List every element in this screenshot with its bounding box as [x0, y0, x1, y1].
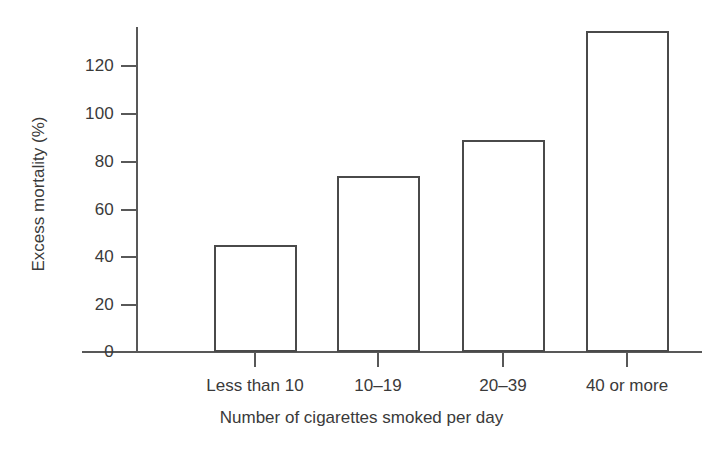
y-axis-tick-label: 100	[54, 104, 114, 124]
bar	[586, 31, 669, 352]
x-axis-category-label: 40 or more	[547, 376, 707, 396]
y-axis-tick-label: 60	[54, 200, 114, 220]
y-axis-title: Excess mortality (%)	[29, 69, 49, 319]
bar-chart: Excess mortality (%) 0 20 40 60 80 100 1…	[0, 0, 723, 451]
x-axis-tick	[377, 353, 379, 367]
y-axis-tick	[121, 304, 137, 306]
x-axis-title: Number of cigarettes smoked per day	[0, 408, 723, 428]
y-axis-tick-label: 40	[54, 247, 114, 267]
x-axis-tick	[626, 353, 628, 367]
y-axis-tick	[121, 161, 137, 163]
y-axis-tick	[121, 256, 137, 258]
y-axis-tick-label: 80	[54, 152, 114, 172]
y-axis-tick	[121, 113, 137, 115]
bar	[214, 245, 297, 352]
y-axis-tick	[121, 65, 137, 67]
y-axis-tick-label: 0	[54, 342, 114, 362]
y-axis-tick	[121, 351, 137, 353]
x-axis-tick	[254, 353, 256, 367]
y-axis-tick-label: 120	[54, 56, 114, 76]
bar	[337, 176, 420, 352]
y-axis-tick-label: 20	[54, 295, 114, 315]
bar	[462, 140, 545, 352]
x-axis-tick	[502, 353, 504, 367]
y-axis-tick	[121, 209, 137, 211]
